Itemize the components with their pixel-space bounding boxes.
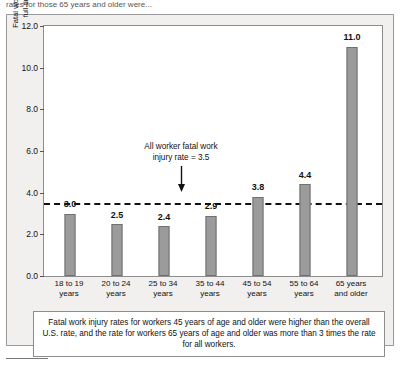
y-tick-1: 2.0 bbox=[10, 229, 38, 239]
x-label-3: 35 to 44 years bbox=[188, 279, 232, 299]
bar-value-5: 4.4 bbox=[299, 170, 312, 180]
x-label-1-line-1: 20 to 24 bbox=[94, 279, 138, 289]
bar-series: 3.0 2.5 2.4 2.9 3.8 bbox=[44, 26, 382, 276]
x-label-0-line-1: 18 to 19 bbox=[47, 279, 91, 289]
y-tick-2: 4.0 bbox=[10, 188, 38, 198]
x-label-5-line-2: years bbox=[282, 289, 326, 299]
x-label-2-line-2: years bbox=[141, 289, 185, 299]
x-label-1: 20 to 24 years bbox=[94, 279, 138, 299]
bar-value-6: 11.0 bbox=[343, 32, 360, 42]
bar-3 bbox=[206, 216, 217, 276]
x-label-5: 55 to 64 years bbox=[282, 279, 326, 299]
plot-area: 0.0 2.0 4.0 6.0 8.0 10.0 12.0 All worker… bbox=[43, 25, 383, 277]
x-label-4: 45 to 54 years bbox=[235, 279, 279, 299]
footnote-rule bbox=[6, 358, 48, 359]
bar-value-4: 3.8 bbox=[252, 182, 265, 192]
x-label-0: 18 to 19 years bbox=[47, 279, 91, 299]
y-tick-0: 0.0 bbox=[10, 271, 38, 281]
x-label-6-line-1: 65 years bbox=[329, 279, 373, 289]
plot-inner: 0.0 2.0 4.0 6.0 8.0 10.0 12.0 All worker… bbox=[44, 26, 382, 276]
bar-value-2: 2.4 bbox=[158, 212, 171, 222]
x-label-4-line-1: 45 to 54 bbox=[235, 279, 279, 289]
bar-4 bbox=[253, 197, 264, 276]
bar-value-0: 3.0 bbox=[64, 199, 77, 209]
x-label-4-line-2: years bbox=[235, 289, 279, 299]
x-label-6-line-2: and older bbox=[329, 289, 373, 299]
bar-1 bbox=[112, 224, 123, 276]
x-label-2: 25 to 34 years bbox=[141, 279, 185, 299]
x-label-6: 65 years and older bbox=[329, 279, 373, 299]
bar-0 bbox=[65, 214, 76, 277]
x-label-2-line-1: 25 to 34 bbox=[141, 279, 185, 289]
y-tick-mark-0 bbox=[40, 276, 44, 277]
x-label-3-line-1: 35 to 44 bbox=[188, 279, 232, 289]
x-label-0-line-2: years bbox=[47, 289, 91, 299]
y-tick-4: 8.0 bbox=[10, 104, 38, 114]
bar-value-1: 2.5 bbox=[111, 210, 124, 220]
x-label-3-line-2: years bbox=[188, 289, 232, 299]
y-tick-5: 10.0 bbox=[10, 63, 38, 73]
x-label-1-line-2: years bbox=[94, 289, 138, 299]
chart-figure: Fatal work injury rate (per 100,000 full… bbox=[6, 14, 394, 346]
bar-6 bbox=[347, 47, 358, 276]
bar-value-3: 2.9 bbox=[205, 201, 218, 211]
y-tick-3: 6.0 bbox=[10, 146, 38, 156]
y-tick-6: 12.0 bbox=[10, 21, 38, 31]
bar-5 bbox=[300, 184, 311, 276]
chart-note: Fatal work injury rates for workers 45 y… bbox=[33, 311, 385, 357]
x-axis-labels: 18 to 19 years 20 to 24 years 25 to 34 y… bbox=[43, 279, 383, 309]
x-label-5-line-1: 55 to 64 bbox=[282, 279, 326, 289]
top-caption: rates for those 65 years and older were.… bbox=[6, 0, 386, 12]
bar-2 bbox=[159, 226, 170, 276]
